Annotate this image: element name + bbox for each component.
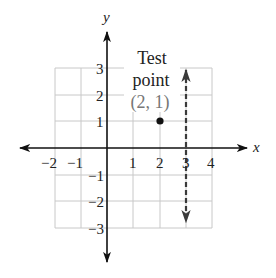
y-tick-label: −3 xyxy=(88,221,104,237)
y-tick-label: 2 xyxy=(96,88,104,104)
test-point-label-line2: point xyxy=(132,70,169,90)
y-tick-label: −2 xyxy=(88,194,104,210)
x-tick-label: 2 xyxy=(156,155,164,171)
test-point-coords: (2, 1) xyxy=(131,92,170,113)
x-axis-label: x xyxy=(252,139,260,155)
x-tick-label: 3 xyxy=(182,155,190,171)
x-tick-label: 4 xyxy=(207,155,215,171)
coordinate-plane: x y −2 −1 1 2 3 4 3 2 1 −1 −2 −3 Test po… xyxy=(0,0,276,278)
y-tick-label: 1 xyxy=(96,114,104,130)
x-tick-label: −2 xyxy=(41,155,57,171)
x-tick-label: 1 xyxy=(129,155,137,171)
y-tick-label: −1 xyxy=(88,168,104,184)
x-tick-label: −1 xyxy=(67,155,83,171)
y-tick-label: 3 xyxy=(96,61,104,77)
test-point-dot xyxy=(156,117,163,124)
y-axis-label: y xyxy=(101,9,110,25)
test-point-label-line1: Test xyxy=(137,48,167,68)
